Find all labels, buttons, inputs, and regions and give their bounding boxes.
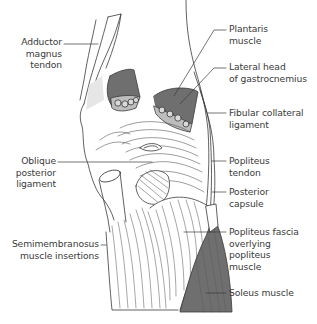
label-soleus-muscle: Soleus muscle	[229, 287, 294, 299]
label-semimembranosus-insertions: Semimembranosus muscle insertions	[0, 238, 99, 261]
label-fibular-collateral-ligament: Fibular collateral ligament	[229, 107, 304, 130]
medial-gastrocnemius-cut	[107, 69, 140, 111]
knee-anatomy-diagram: Adductor magnus tendon Oblique posterior…	[0, 0, 317, 324]
label-plantaris-muscle: Plantaris muscle	[229, 23, 268, 46]
label-lateral-head-gastrocnemius: Lateral head of gastrocnemius	[229, 61, 307, 84]
label-oblique-posterior-ligament: Oblique posterior ligament	[2, 155, 56, 190]
label-popliteus-fascia: Popliteus fascia overlying popliteus mus…	[229, 226, 299, 272]
label-adductor-magnus-tendon: Adductor magnus tendon	[2, 36, 62, 71]
semimembranosus-tendon-shape	[98, 168, 126, 232]
label-popliteus-tendon: Popliteus tendon	[229, 155, 270, 178]
label-posterior-capsule: Posterior capsule	[229, 186, 269, 209]
